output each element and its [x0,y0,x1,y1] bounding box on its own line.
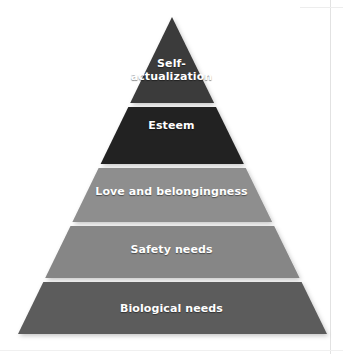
maslow-pyramid [0,0,343,354]
pyramid-tier-love-and-belongingness [72,168,272,222]
pyramid-tier-safety-needs [45,226,299,278]
pyramid-tier-biological-needs [18,282,327,334]
diagram-canvas: Self- actualization Esteem Love and belo… [0,0,343,354]
pyramid-tier-self-actualization [130,17,214,103]
pyramid-tier-esteem [101,107,244,164]
